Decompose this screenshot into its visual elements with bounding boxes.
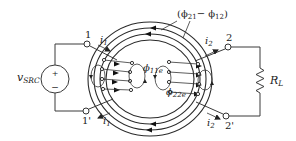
source-label: vSRC xyxy=(17,71,40,85)
flux-ring-2 xyxy=(94,28,206,130)
load-bottom-wire xyxy=(229,93,260,116)
load-top-wire xyxy=(231,47,260,68)
flux-ring-3 xyxy=(100,34,200,124)
winding1-arrow-icon xyxy=(114,88,120,93)
leakage-flux-1 xyxy=(89,64,147,88)
mutual-flux-pointer xyxy=(161,21,177,30)
terminal-2 xyxy=(225,44,231,50)
mutual-flux-arrow-icon xyxy=(145,32,151,37)
terminal-1 xyxy=(84,41,90,47)
resistor-icon xyxy=(256,68,264,93)
mutual-flux-arrow-icon xyxy=(150,26,156,31)
terminal-2-label: 2 xyxy=(226,32,232,43)
toroid-transformer-diagram: + − vSRC 1 1' 2 2' RL i1 i1 i2 i2 xyxy=(0,0,296,141)
winding1-arrow-icon xyxy=(114,62,120,67)
source-bottom-wire xyxy=(55,93,83,111)
mutual-flux-pointer xyxy=(183,21,190,38)
source-top-wire xyxy=(55,44,84,65)
load-label: RL xyxy=(269,74,283,88)
terminal-1-prime-label: 1' xyxy=(82,115,91,126)
load-circuit: RL xyxy=(229,47,283,116)
mutual-flux-annotation: (ϕ21− ϕ12) xyxy=(161,8,228,38)
source-plus: + xyxy=(52,69,59,78)
winding1-arrow-icon xyxy=(113,71,119,76)
source-minus: − xyxy=(51,82,59,92)
terminal-2-prime-label: 2' xyxy=(225,120,234,131)
leakage-loop-outer-icon xyxy=(91,65,105,87)
i2-bottom-label: i2 xyxy=(207,117,215,130)
source-circuit: + − vSRC xyxy=(17,44,84,111)
terminal-1-label: 1 xyxy=(85,29,91,40)
return-flux-arrow-icon xyxy=(146,128,152,133)
return-flux-arrow-icon xyxy=(150,122,156,127)
i2-top-label: i2 xyxy=(205,35,213,48)
leakage-flux-1-label: ϕ11e xyxy=(143,62,163,75)
leakage-flux-2-label: ϕ22e xyxy=(166,86,186,99)
terminal-2-prime xyxy=(223,113,229,119)
flux-ring-inner xyxy=(106,40,194,118)
mutual-flux-label: (ϕ21− ϕ12) xyxy=(177,8,228,21)
terminal-1-prime xyxy=(83,108,89,114)
